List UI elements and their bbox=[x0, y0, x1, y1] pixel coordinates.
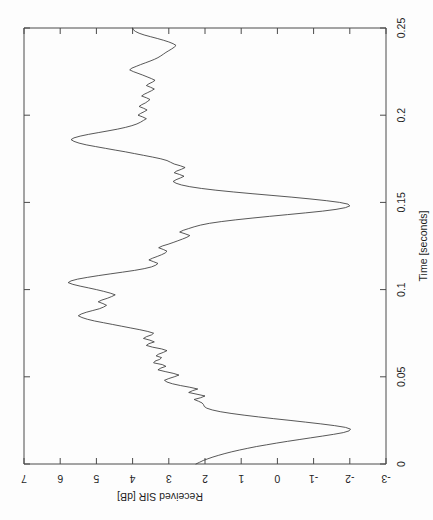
time-tick-label: 0.15 bbox=[395, 192, 407, 213]
sir-tick-label: 2 bbox=[202, 473, 208, 485]
time-axis-ticks bbox=[24, 28, 386, 464]
sir-tick-label: -2 bbox=[345, 473, 354, 485]
sir-tick-label: 0 bbox=[274, 473, 280, 485]
sir-tick-label: -1 bbox=[309, 473, 318, 485]
time-tick-label: 0.1 bbox=[395, 282, 407, 297]
figure-container: 00.050.10.150.20.25 -3-2-101234567 Time … bbox=[0, 0, 433, 520]
sir-tick-label: 4 bbox=[130, 473, 136, 485]
sir-vs-time-chart: 00.050.10.150.20.25 -3-2-101234567 Time … bbox=[0, 0, 433, 520]
received-sir-trace bbox=[68, 28, 350, 464]
sir-axis-title: Received SIR [dB] bbox=[117, 491, 203, 503]
sir-tick-label: 7 bbox=[21, 473, 27, 485]
sir-axis-tick-labels: -3-2-101234567 bbox=[21, 473, 391, 485]
sir-tick-label: 5 bbox=[93, 473, 99, 485]
axis-frame bbox=[24, 28, 386, 464]
time-tick-label: 0.05 bbox=[395, 366, 407, 387]
data-series-group bbox=[68, 28, 350, 464]
sir-axis-ticks bbox=[24, 28, 386, 464]
sir-tick-label: 6 bbox=[57, 473, 63, 485]
plot-frame bbox=[24, 28, 386, 464]
time-tick-label: 0.2 bbox=[395, 108, 407, 123]
time-tick-label: 0.25 bbox=[395, 18, 407, 39]
time-axis-title: Time [seconds] bbox=[417, 211, 429, 282]
time-axis-tick-labels: 00.050.10.150.20.25 bbox=[395, 18, 407, 467]
time-tick-label: 0 bbox=[395, 461, 407, 467]
sir-tick-label: -3 bbox=[381, 473, 390, 485]
sir-tick-label: 1 bbox=[238, 473, 244, 485]
sir-tick-label: 3 bbox=[166, 473, 172, 485]
